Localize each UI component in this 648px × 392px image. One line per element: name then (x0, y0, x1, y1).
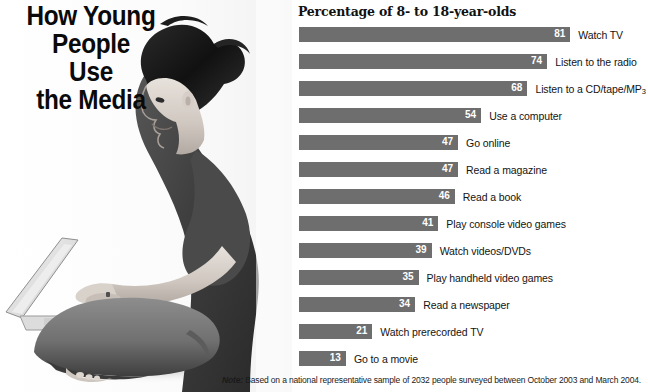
bar-value-label: 81 (546, 28, 565, 39)
bar-category-label: Read a magazine (466, 164, 547, 176)
bar-category-label: Read a newspaper (423, 299, 510, 311)
bar-value-label: 68 (503, 82, 522, 93)
bar-value-label: 39 (408, 244, 427, 255)
bar-row: 35Play handheld video games (292, 269, 648, 296)
bar-category-label: Play console video games (446, 218, 566, 230)
bar (299, 108, 481, 123)
bar-category-label: Listen to the radio (555, 56, 637, 68)
bar-row: 39Watch videos/DVDs (292, 242, 648, 269)
footnote-label: Note: (222, 375, 243, 385)
bar-row: 54Use a computer (292, 107, 648, 134)
bar (299, 81, 527, 96)
bar-value-label: 35 (395, 271, 414, 282)
bar-category-label: Read a book (463, 191, 521, 203)
bar-row: 41Play console video games (292, 215, 648, 242)
bar-row: 47Read a magazine (292, 161, 648, 188)
bar-category-label: Listen to a CD/tape/MP3 (535, 83, 645, 95)
chart-title: Percentage of 8- to 18-year-olds (298, 4, 516, 19)
bar-category-label: Watch prerecorded TV (380, 326, 483, 338)
bar-category-label: Go online (466, 137, 510, 149)
bar-chart: 81Watch TV74Listen to the radio68Listen … (292, 26, 648, 377)
bar-row: 81Watch TV (292, 26, 648, 53)
bar-category-label: Watch videos/DVDs (440, 245, 531, 257)
bar-row: 21Watch prerecorded TV (292, 323, 648, 350)
bar-value-label: 74 (523, 55, 542, 66)
bar-row: 13Go to a movie (292, 350, 648, 377)
bar-category-label: Use a computer (489, 110, 562, 122)
bar-value-label: 34 (391, 298, 410, 309)
bar-value-label: 41 (414, 217, 433, 228)
chart-footnote: Note: Based on a national representative… (222, 375, 641, 385)
young-person-laptop-photo (0, 0, 292, 392)
bar (299, 27, 570, 42)
bar-category-label: Watch TV (578, 29, 623, 41)
bar-value-label: 47 (434, 136, 453, 147)
bar-value-label: 21 (348, 325, 367, 336)
infographic-root: How Young People Use the Media Percentag… (0, 0, 648, 392)
bar-row: 68Listen to a CD/tape/MP3 (292, 80, 648, 107)
bar-value-label: 47 (434, 163, 453, 174)
bar-row: 74Listen to the radio (292, 53, 648, 80)
footnote-text: Based on a national representative sampl… (243, 375, 641, 385)
bar-row: 47Go online (292, 134, 648, 161)
bar-value-label: 13 (322, 352, 341, 363)
bar-category-label: Go to a movie (354, 353, 418, 365)
bar-value-label: 54 (457, 109, 476, 120)
bar-category-label: Play handheld video games (427, 272, 554, 284)
bar-row: 34Read a newspaper (292, 296, 648, 323)
bar-row: 46Read a book (292, 188, 648, 215)
bar-value-label: 46 (431, 190, 450, 201)
bar (299, 54, 547, 69)
chart-panel: Percentage of 8- to 18-year-olds 81Watch… (292, 0, 648, 392)
photo-panel: How Young People Use the Media (0, 0, 292, 392)
